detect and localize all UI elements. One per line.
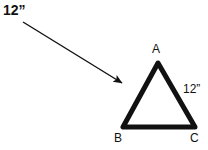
- vertex-label-c: C: [190, 132, 199, 144]
- vertex-label-b: B: [114, 132, 122, 144]
- vertex-label-a: A: [152, 43, 160, 55]
- pointer-arrow: [23, 22, 122, 83]
- side-measurement-label-ac: 12”: [183, 83, 200, 95]
- figure-svg: [0, 0, 208, 150]
- lead-measurement-label: 12”: [3, 3, 26, 17]
- diagram-canvas: 12” 12” A B C: [0, 0, 208, 150]
